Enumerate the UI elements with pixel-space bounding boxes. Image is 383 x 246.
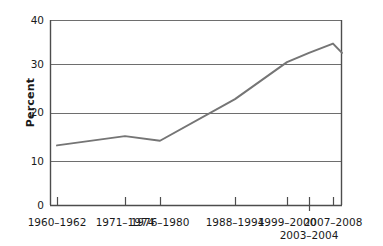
chart-container: Percent 40 30 20 10 0 1960–1962 1971–197…: [0, 0, 383, 246]
x-axis-ticks: [58, 197, 334, 211]
axis-lines: [50, 20, 342, 206]
chart-plot-area: [0, 0, 383, 246]
data-series-line: [57, 44, 342, 146]
